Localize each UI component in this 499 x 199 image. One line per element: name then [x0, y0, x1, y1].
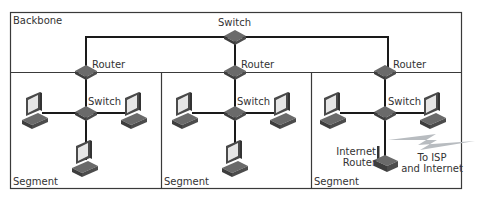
- segment-label: Segment: [314, 176, 359, 187]
- computer-icon: [222, 140, 248, 177]
- isp-label: To ISP and Internet: [400, 152, 464, 174]
- computer-icon: [320, 92, 346, 129]
- computer-icon: [420, 92, 446, 129]
- computer-icon: [270, 92, 296, 129]
- switch-label: Switch: [88, 96, 121, 107]
- internet-router-label: Internet Router: [334, 146, 376, 168]
- backbone-label: Backbone: [13, 15, 62, 26]
- segment-label: Segment: [13, 176, 58, 187]
- router-label: Router: [393, 59, 426, 70]
- isp-label-line1: To ISP: [400, 152, 464, 163]
- router-label: Router: [241, 59, 274, 70]
- switch-label: Switch: [237, 96, 270, 107]
- segment-label: Segment: [164, 176, 209, 187]
- backbone-switch-label: Switch: [218, 17, 251, 28]
- computer-icon: [172, 92, 198, 129]
- backbone-switch-icon: [224, 30, 246, 45]
- computer-icon: [121, 92, 147, 129]
- router-label: Router: [92, 59, 125, 70]
- computer-icon: [22, 92, 48, 129]
- computer-icon: [72, 140, 98, 177]
- internet-router-label-line1: Internet: [334, 146, 376, 157]
- switch-icon: [374, 106, 396, 121]
- internet-router-label-line2: Router: [334, 157, 376, 168]
- switch-icon: [224, 106, 246, 121]
- switch-label: Switch: [388, 96, 421, 107]
- switch-icon: [75, 106, 97, 121]
- isp-label-line2: and Internet: [400, 163, 464, 174]
